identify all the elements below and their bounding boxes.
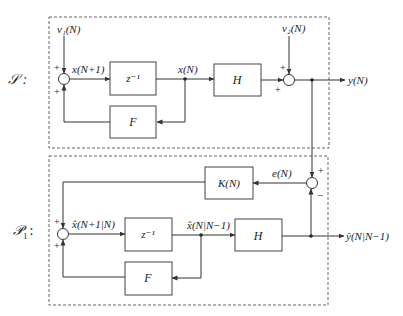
sum-junction-1: [59, 74, 70, 85]
error-label: e(N): [272, 167, 292, 180]
system-label: 𝒮 :: [8, 72, 27, 87]
predictor-sum-junction: [58, 229, 69, 240]
psum-sign-top: +: [54, 216, 60, 227]
predictor-output-label: H: [253, 229, 264, 243]
sum1-sign-top: +: [54, 62, 60, 73]
sum-junction-2: [284, 75, 295, 86]
output-block-label: H: [232, 73, 243, 87]
output-y-label: y(N): [347, 74, 368, 87]
state-label: x(N): [177, 63, 198, 76]
block-diagram: 𝒮 : v₁(N) + + x(N+1) z⁻¹ x(N) F H v₂(N) …: [0, 0, 403, 316]
predictor-output-y-label: ŷ(N|N−1): [345, 230, 389, 243]
sum1-sign-bottom: +: [54, 86, 60, 97]
predictor-label-colon: :: [30, 223, 34, 238]
predictor-delay-label: z⁻¹: [140, 228, 154, 240]
psum-sign-bottom: +: [54, 240, 60, 251]
gain-block-label: K(N): [217, 177, 240, 190]
input-v2-label: v₂(N): [282, 22, 306, 35]
input-v1-label: v₁(N): [57, 23, 81, 36]
sum2-sign-top: +: [280, 62, 286, 73]
sum2-sign-bottom: +: [275, 84, 281, 95]
delay-block-label: z⁻¹: [125, 72, 139, 84]
error-sign-minus: −: [317, 189, 323, 201]
error-sum-junction: [307, 178, 318, 189]
feedback-block-label: F: [128, 115, 137, 129]
predictor-label: 𝒫1:: [13, 223, 33, 241]
predictor-state-next-label: x̂(N+1|N): [71, 218, 115, 231]
state-next-label: x(N+1): [71, 63, 105, 76]
predictor-feedback-label: F: [143, 271, 152, 285]
error-sign-plus: +: [318, 165, 324, 176]
predictor-state-label: x̂(N|N−1): [186, 219, 230, 232]
predictor-label-sub: 1: [23, 231, 28, 241]
